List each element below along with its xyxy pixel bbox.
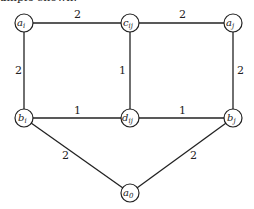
weight-aj-bj: 2 <box>237 64 244 77</box>
weight-ai-bi: 2 <box>15 64 22 77</box>
node-b-i: bi <box>15 109 33 127</box>
node-c-ij: cij <box>121 14 139 32</box>
node-d-ij: dij <box>121 109 139 127</box>
edges <box>24 23 233 193</box>
edge-bj-a0 <box>130 118 233 193</box>
weight-ai-cij: 2 <box>74 8 81 21</box>
graph-diagram: 2 2 2 1 2 1 1 2 2 ai cij aj bi dij <box>0 0 254 209</box>
node-a-0: a0 <box>121 184 139 202</box>
nodes: ai cij aj bi dij bj a0 <box>15 14 242 202</box>
weight-dij-bj: 1 <box>179 104 186 117</box>
weight-bj-a0: 2 <box>190 149 197 162</box>
node-a-i: ai <box>15 14 33 32</box>
edge-bi-a0 <box>24 118 130 193</box>
node-a-j: aj <box>224 14 242 32</box>
weight-cij-dij: 1 <box>119 64 126 77</box>
weight-bi-dij: 1 <box>74 104 81 117</box>
node-b-j: bj <box>224 109 242 127</box>
weight-bi-a0: 2 <box>62 149 69 162</box>
weight-cij-aj: 2 <box>179 8 186 21</box>
